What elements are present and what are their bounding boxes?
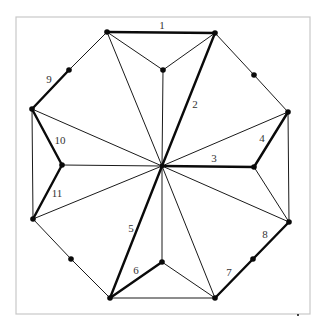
octagon-diagram: 1 2 3 4 5 6 7 8 9 10 11 [0,0,324,329]
edge-8 [253,222,289,259]
edge-1 [107,32,215,33]
label-2: 2 [192,98,198,110]
label-5: 5 [128,222,134,234]
label-11: 11 [52,187,63,199]
inner-vertex-edges [107,32,289,298]
edge-labels: 1 2 3 4 5 6 7 8 9 10 11 [46,19,268,278]
label-8: 8 [262,228,268,240]
edge-7 [215,259,253,298]
label-3: 3 [211,152,217,164]
label-9: 9 [46,73,52,85]
label-1: 1 [159,19,165,31]
edge-2 [162,33,215,166]
edge-5 [110,166,162,298]
edge-3 [162,166,254,167]
label-10: 10 [55,134,67,146]
label-6: 6 [133,264,139,276]
vertex-dots [29,29,299,316]
label-7: 7 [226,266,232,278]
label-4: 4 [259,132,265,144]
